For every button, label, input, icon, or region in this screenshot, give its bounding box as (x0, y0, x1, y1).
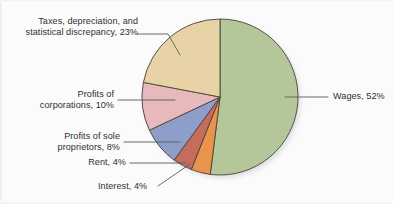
label-profits-corporations: Profits of corporations, 10% (0, 89, 114, 112)
label-taxes-line2: statistical discrepancy, 23% (8, 27, 138, 38)
label-sole-line2: proprietors, 8% (0, 142, 120, 153)
label-wages: Wages, 52% (333, 91, 385, 102)
leader-line-interest (158, 164, 190, 186)
label-profits-sole-proprietors: Profits of sole proprietors, 8% (0, 131, 120, 154)
label-taxes-depreciation: Taxes, depreciation, and statistical dis… (8, 16, 138, 39)
pie-slices-group (142, 19, 298, 175)
label-interest: Interest, 4% (98, 181, 147, 192)
label-rent: Rent, 4% (0, 157, 126, 168)
label-taxes-line1: Taxes, depreciation, and (38, 16, 138, 26)
label-corporations-line1: Profits of (78, 89, 114, 99)
label-corporations-line2: corporations, 10% (0, 100, 114, 111)
label-sole-line1: Profits of sole (64, 131, 120, 141)
pie-chart-figure: Taxes, depreciation, and statistical dis… (0, 0, 393, 204)
